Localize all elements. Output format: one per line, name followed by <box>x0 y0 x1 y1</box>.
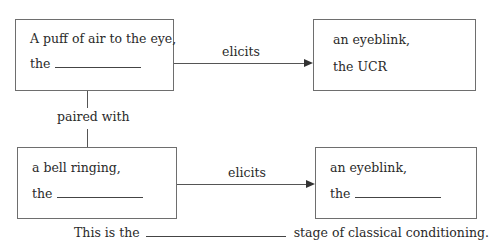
arrow-us-to-ucr-line <box>174 63 305 64</box>
box-unconditioned-response: an eyeblink, the UCR <box>313 19 476 91</box>
footer-suffix: stage of classical conditioning. <box>294 225 489 240</box>
box-response: an eyeblink, the <box>315 147 477 219</box>
fill-in-blank-stage[interactable] <box>146 235 286 237</box>
fill-in-blank-us[interactable] <box>55 66 141 68</box>
footer-prefix: This is the <box>74 225 140 240</box>
arrow-ns-to-response-line <box>177 184 307 185</box>
arrow-us-to-ucr-label: elicits <box>222 44 260 59</box>
box-us-line2: the <box>30 56 141 71</box>
box-ucr-line2: the UCR <box>333 59 387 74</box>
box-unconditioned-stimulus: A puff of air to the eye, the <box>15 19 174 91</box>
fill-in-blank-ns[interactable] <box>57 196 143 198</box>
fill-in-blank-response[interactable] <box>355 196 441 198</box>
box-ucr-line1: an eyeblink, <box>333 32 410 47</box>
box-us-prefix: the <box>30 56 50 71</box>
box-ns-line2: the <box>32 186 143 201</box>
box-response-line2: the <box>330 186 441 201</box>
box-response-line1: an eyeblink, <box>330 160 407 175</box>
box-response-prefix: the <box>330 186 350 201</box>
connector-line-top <box>87 91 88 108</box>
connector-label: paired with <box>57 109 130 124</box>
footer-sentence: This is thestage of classical conditioni… <box>74 225 489 240</box>
box-neutral-stimulus: a bell ringing, the <box>17 147 177 219</box>
box-us-line1: A puff of air to the eye, <box>30 31 176 46</box>
arrow-us-to-ucr-head-icon <box>304 59 313 67</box>
connector-line-bottom <box>87 129 88 147</box>
box-ns-line1: a bell ringing, <box>32 160 121 175</box>
box-ns-prefix: the <box>32 186 52 201</box>
arrow-ns-to-response-label: elicits <box>228 165 266 180</box>
arrow-ns-to-response-head-icon <box>306 180 315 188</box>
